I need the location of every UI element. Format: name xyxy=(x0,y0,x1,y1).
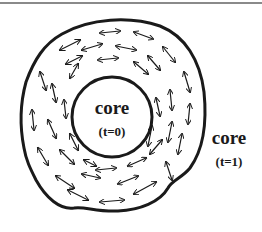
outer-core-title: core xyxy=(212,127,246,148)
inner-core-title: core xyxy=(95,97,129,118)
inner-core-time: (t=0) xyxy=(99,124,126,139)
core-growth-diagram: core (t=0) core (t=1) xyxy=(0,0,262,232)
outer-core-time: (t=1) xyxy=(216,154,243,169)
